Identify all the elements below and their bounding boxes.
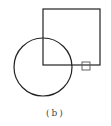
- large-square: [43, 9, 100, 65]
- small-square: [82, 62, 90, 70]
- figure-caption: (b): [0, 108, 111, 118]
